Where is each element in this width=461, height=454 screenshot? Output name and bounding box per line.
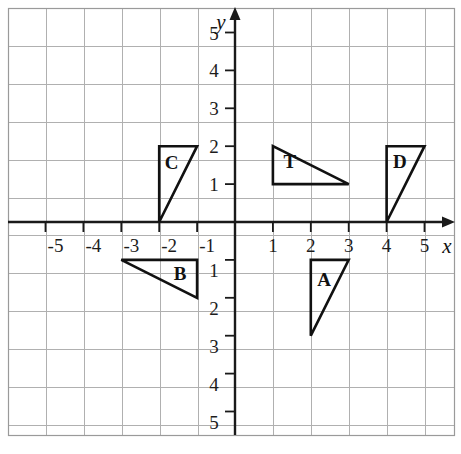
- shape-label-C: C: [165, 153, 179, 172]
- shape-label-A: A: [317, 269, 331, 288]
- x-tick-label-neg1: -1: [199, 236, 215, 255]
- y-tick-label-4: 4: [209, 61, 219, 80]
- shape-label-D: D: [393, 152, 407, 171]
- y-tick-label-2: 2: [209, 137, 219, 156]
- shape-label-T: T: [284, 152, 297, 171]
- plot-canvas: [0, 0, 461, 454]
- coordinate-plane-figure: -5-4-3-2-1123455432112345yxTABCD: [0, 0, 461, 454]
- x-tick-label-neg2: -2: [161, 236, 177, 255]
- y-tick-label-neg1: 1: [209, 260, 219, 279]
- x-tick-label-neg3: -3: [123, 236, 139, 255]
- shape-label-B: B: [174, 264, 187, 283]
- x-tick-label-5: 5: [420, 236, 430, 255]
- y-tick-label-3: 3: [209, 99, 219, 118]
- x-axis-arrowhead: [442, 217, 455, 228]
- x-tick-label-neg4: -4: [85, 236, 101, 255]
- y-axis-label: y: [216, 12, 225, 33]
- y-tick-label-neg2: 2: [209, 298, 219, 317]
- x-tick-label-3: 3: [344, 236, 354, 255]
- x-axis-label: x: [442, 236, 451, 257]
- y-tick-label-neg4: 4: [209, 374, 219, 393]
- x-tick-label-2: 2: [306, 236, 316, 255]
- x-tick-label-1: 1: [268, 236, 278, 255]
- x-tick-label-neg5: -5: [48, 236, 64, 255]
- y-tick-label-1: 1: [209, 175, 219, 194]
- x-tick-label-4: 4: [382, 236, 392, 255]
- y-tick-label-neg3: 3: [209, 336, 219, 355]
- y-tick-label-neg5: 5: [209, 412, 219, 431]
